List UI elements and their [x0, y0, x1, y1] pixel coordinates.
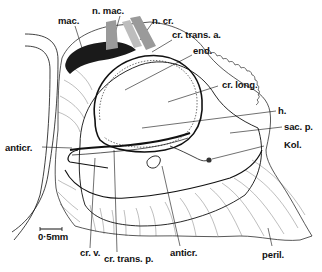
label-saccus-p: sac. p. — [284, 122, 313, 132]
lower-curve — [65, 150, 262, 198]
endolymph-oval-inner — [99, 60, 197, 147]
label-macula: mac. — [58, 16, 79, 26]
label-anticrista-left: anticr. — [5, 143, 32, 153]
label-crista-longitudinalis: cr. long. — [222, 80, 258, 90]
anatomical-figure: mac. n. mac. n. cr. cr. trans. a. end. c… — [0, 0, 322, 272]
label-endolymph: end. — [193, 46, 212, 56]
label-crista-ventralis: cr. v. — [80, 248, 100, 258]
label-perilymph: peril. — [262, 250, 284, 260]
label-anticrista-bottom: anticr. — [170, 248, 197, 258]
label-crista-transversa-posterior: cr. trans. p. — [104, 254, 153, 264]
anticrista-blob — [147, 156, 160, 168]
scale-bar-label: 0·5mm — [38, 232, 68, 242]
endolymph-oval — [94, 55, 202, 151]
kolmer-duct — [170, 146, 208, 161]
nerve-macular — [106, 20, 118, 50]
label-nervus-cristae: n. cr. — [152, 16, 174, 26]
label-kolmer: Kol. — [284, 140, 302, 150]
label-nervus-macularis: n. mac. — [92, 6, 124, 16]
label-h: h. — [278, 106, 286, 116]
label-crista-transversa-anterior: cr. trans. a. — [172, 30, 221, 40]
kolmer-body — [206, 157, 211, 162]
crest-edge — [205, 49, 260, 105]
macula-mass — [65, 41, 136, 74]
outer-wall-line — [12, 34, 58, 232]
